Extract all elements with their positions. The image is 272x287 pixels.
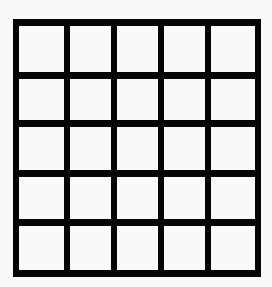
grid-cell xyxy=(117,127,158,170)
grid-border-vertical xyxy=(13,19,19,277)
grid-line-horizontal xyxy=(13,72,261,79)
grid-cell xyxy=(211,26,255,72)
grid-cell xyxy=(70,226,111,270)
grid-cell xyxy=(211,177,255,219)
grid-cell xyxy=(70,127,111,170)
grid-line-horizontal xyxy=(13,170,261,177)
grid-line-vertical xyxy=(111,19,117,277)
grid-cell xyxy=(164,79,205,120)
grid-cell xyxy=(117,26,158,72)
grid-cell xyxy=(70,79,111,120)
grid-cell xyxy=(164,26,205,72)
grid-cell xyxy=(211,226,255,270)
grid-border-vertical xyxy=(255,19,261,277)
grid-border-horizontal xyxy=(13,19,261,26)
grid-cell xyxy=(70,177,111,219)
grid-cell xyxy=(19,226,64,270)
grid-diagram xyxy=(0,0,272,287)
grid-cell xyxy=(117,226,158,270)
grid-cell xyxy=(211,127,255,170)
grid-cell xyxy=(19,79,64,120)
grid-line-vertical xyxy=(64,19,70,277)
grid-line-vertical xyxy=(205,19,211,277)
grid-cell xyxy=(164,177,205,219)
grid-cell xyxy=(164,226,205,270)
grid-cell xyxy=(19,26,64,72)
grid-border-horizontal xyxy=(13,270,261,277)
grid-line-horizontal xyxy=(13,219,261,226)
grid-line-vertical xyxy=(158,19,164,277)
grid-cell xyxy=(117,177,158,219)
grid-cell xyxy=(164,127,205,170)
grid-cell xyxy=(19,127,64,170)
grid-cell xyxy=(19,177,64,219)
grid-line-horizontal xyxy=(13,120,261,127)
grid-cell xyxy=(117,79,158,120)
grid-cell xyxy=(70,26,111,72)
grid-cell xyxy=(211,79,255,120)
